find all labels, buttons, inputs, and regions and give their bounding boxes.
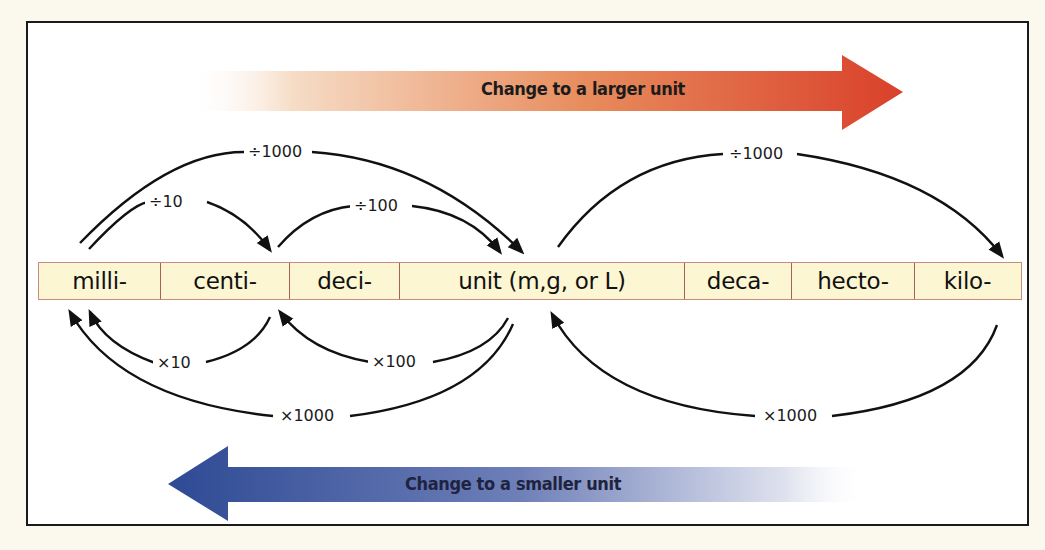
unit-cell-milli: milli-: [39, 263, 161, 299]
divide-1000-right-label: ÷1000: [725, 144, 787, 163]
conversion-arcs-top: [80, 152, 1002, 256]
unit-cell-kilo: kilo-: [915, 263, 1020, 299]
divide-10-label: ÷10: [145, 192, 187, 211]
metric-prefix-bar: milli- centi- deci- unit (m,g, or L) dec…: [38, 262, 1022, 300]
unit-cell-deci: deci-: [290, 263, 400, 299]
conversion-arcs-bottom: [70, 312, 997, 416]
times-10-label: ×10: [153, 353, 195, 372]
times-100-label: ×100: [368, 352, 420, 371]
divide-100-label: ÷100: [350, 196, 402, 215]
times-1000-right-label: ×1000: [759, 406, 821, 425]
smaller-unit-label: Change to a smaller unit: [405, 473, 621, 494]
larger-unit-label: Change to a larger unit: [481, 78, 685, 99]
unit-cell-centi: centi-: [161, 263, 290, 299]
divide-1000-left-label: ÷1000: [244, 142, 306, 161]
unit-cell-deca: deca-: [685, 263, 792, 299]
unit-cell-hecto: hecto-: [792, 263, 915, 299]
times-1000-left-label: ×1000: [276, 406, 338, 425]
unit-cell-base: unit (m,g, or L): [400, 263, 685, 299]
